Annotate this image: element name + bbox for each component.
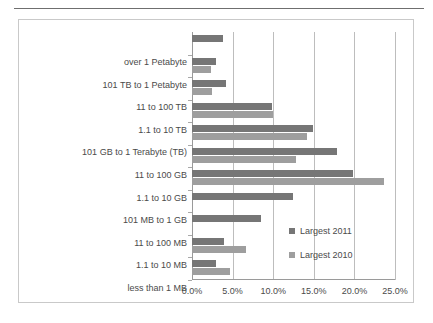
- legend-label: Largest 2010: [300, 250, 353, 260]
- category-label: 1.1 to 10 GB: [39, 193, 187, 203]
- category-label: 1.1 to 10 TB: [39, 125, 187, 135]
- legend-swatch-icon: [289, 228, 295, 234]
- bar-row: [192, 190, 395, 213]
- x-axis-label: 15.0%: [301, 286, 327, 296]
- x-axis-tick-labels: 0.0%5.0%10.0%15.0%20.0%25.0%: [192, 284, 395, 300]
- chart-legend: Largest 2011 Largest 2010: [289, 226, 394, 274]
- category-axis-labels: over 1 Petabyte101 TB to 1 Petabyte11 to…: [39, 51, 187, 299]
- legend-swatch-icon: [289, 252, 295, 258]
- bar-largest-2010: [192, 88, 212, 95]
- category-label: 11 to 100 TB: [39, 102, 187, 112]
- bar-row: [192, 32, 395, 55]
- bar-row: [192, 100, 395, 123]
- bar-largest-2010: [192, 133, 307, 140]
- bar-largest-2011: [192, 103, 272, 110]
- bar-largest-2010: [192, 66, 211, 73]
- x-axis-baseline: [192, 279, 395, 280]
- legend-item-largest-2010: Largest 2010: [289, 250, 394, 260]
- x-axis-label: 10.0%: [260, 286, 286, 296]
- category-label: less than 1 MB: [39, 283, 187, 293]
- category-label: 1.1 to 10 MB: [39, 260, 187, 270]
- bar-largest-2011: [192, 58, 216, 65]
- bar-largest-2011: [192, 148, 337, 155]
- category-label: over 1 Petabyte: [39, 57, 187, 67]
- bar-largest-2010: [192, 246, 246, 253]
- category-tick-mark: [188, 280, 192, 281]
- bar-largest-2011: [192, 238, 224, 245]
- bar-row: [192, 55, 395, 78]
- category-label: 101 TB to 1 Petabyte: [39, 80, 187, 90]
- chart-page: over 1 Petabyte101 TB to 1 Petabyte11 to…: [0, 0, 433, 323]
- category-label: 101 MB to 1 GB: [39, 215, 187, 225]
- x-axis-label: 5.0%: [222, 286, 243, 296]
- bar-largest-2010: [192, 156, 296, 163]
- page-top-rule: [14, 8, 424, 9]
- bar-largest-2011: [192, 260, 216, 267]
- gridline-25.0%: [395, 32, 396, 280]
- category-label: 11 to 100 GB: [39, 170, 187, 180]
- x-axis-label: 0.0%: [182, 286, 203, 296]
- bar-largest-2010: [192, 268, 230, 275]
- bar-largest-2011: [192, 170, 353, 177]
- x-axis-label: 20.0%: [342, 286, 368, 296]
- bar-largest-2011: [192, 215, 261, 222]
- bar-largest-2011: [192, 35, 223, 42]
- bar-row: [192, 167, 395, 190]
- bar-largest-2010: [192, 111, 273, 118]
- chart-frame: over 1 Petabyte101 TB to 1 Petabyte11 to…: [18, 19, 414, 303]
- bar-largest-2010: [192, 178, 384, 185]
- bar-largest-2011: [192, 80, 226, 87]
- category-label: 101 GB to 1 Terabyte (TB): [39, 147, 187, 157]
- legend-label: Largest 2011: [300, 226, 352, 236]
- legend-item-largest-2011: Largest 2011: [289, 226, 394, 236]
- bar-largest-2011: [192, 193, 293, 200]
- bar-largest-2011: [192, 125, 313, 132]
- bar-row: [192, 122, 395, 145]
- bar-row: [192, 145, 395, 168]
- bar-row: [192, 77, 395, 100]
- category-label: 11 to 100 MB: [39, 238, 187, 248]
- x-axis-label: 25.0%: [382, 286, 408, 296]
